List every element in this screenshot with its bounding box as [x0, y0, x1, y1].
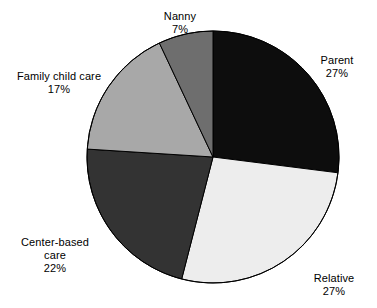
pie-label-parent-value: 27%: [300, 67, 374, 80]
pie-label-nanny-value: 7%: [134, 23, 226, 36]
pie-slice-parent: [213, 31, 339, 173]
pie-label-family-child-care-value: 17%: [2, 83, 116, 96]
pie-label-family-child-care: Family child care 17%: [2, 70, 116, 96]
pie-label-relative-name: Relative: [296, 272, 372, 285]
pie-label-nanny: Nanny 7%: [134, 10, 226, 36]
pie-label-relative: Relative 27%: [296, 272, 372, 298]
pie-label-center-based-care-name: Center-based: [6, 236, 104, 249]
pie-label-parent: Parent 27%: [300, 54, 374, 80]
pie-label-family-child-care-name: Family child care: [2, 70, 116, 83]
pie-label-center-based-care-value: 22%: [6, 262, 104, 275]
pie-chart-figure: Nanny 7% Parent 27% Family child care 17…: [0, 0, 377, 308]
pie-label-nanny-name: Nanny: [134, 10, 226, 23]
pie-label-center-based-care-name-line2: care: [6, 249, 104, 262]
pie-label-parent-name: Parent: [300, 54, 374, 67]
pie-label-center-based-care: Center-based care 22%: [6, 236, 104, 275]
pie-label-relative-value: 27%: [296, 285, 372, 298]
